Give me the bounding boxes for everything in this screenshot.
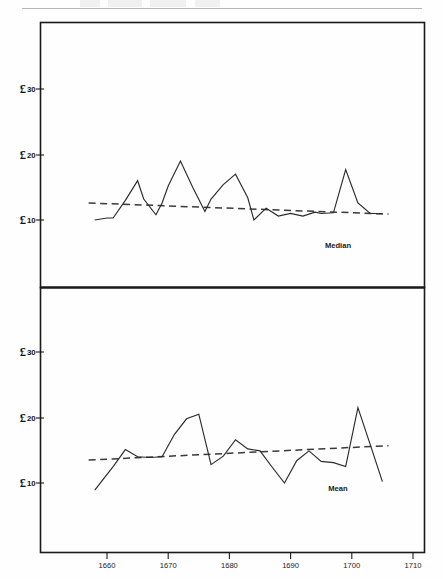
two-panel-line-chart: £ 30 £ 20 £ 10 Median £ 30 <box>0 0 443 579</box>
y-axis-value-30-median: 30 <box>27 85 36 94</box>
x-axis-tick-label: 1680 <box>221 561 238 570</box>
y-axis-value-10-median: 10 <box>27 216 36 225</box>
y-axis-value-30-mean: 30 <box>27 348 36 357</box>
trendline-median <box>89 203 389 214</box>
figure-page: £ 30 £ 20 £ 10 Median £ 30 <box>0 0 443 579</box>
panel-frame-median <box>41 23 425 288</box>
y-axis-labels-median: £ 30 £ 20 £ 10 <box>20 82 37 227</box>
y-axis-currency-30-mean: £ <box>20 345 26 359</box>
y-axis-currency-10-median: £ <box>20 213 26 227</box>
x-axis-tick-label: 1670 <box>160 561 177 570</box>
y-axis-labels-mean: £ 30 £ 20 £ 10 <box>20 345 37 490</box>
series-label-median: Median <box>325 241 352 250</box>
y-axis-value-10-mean: 10 <box>27 479 36 488</box>
x-axis-tick-label: 1700 <box>343 561 360 570</box>
x-axis-labels: 166016701680169017001710 <box>99 561 422 570</box>
panel-frame-mean <box>41 288 425 553</box>
x-axis-tick-label: 1710 <box>405 561 422 570</box>
dataline-median <box>95 161 383 220</box>
y-axis-currency-20-median: £ <box>20 148 26 162</box>
x-axis-tick-label: 1660 <box>99 561 116 570</box>
y-axis-value-20-mean: 20 <box>27 414 36 423</box>
y-axis-value-20-median: 20 <box>27 151 36 160</box>
trendline-mean <box>89 446 389 460</box>
x-axis-tick-label: 1690 <box>282 561 299 570</box>
panel-median: £ 30 £ 20 £ 10 Median <box>20 82 389 250</box>
dataline-mean <box>95 408 383 491</box>
y-axis-currency-30-median: £ <box>20 82 26 96</box>
x-axis: 166016701680169017001710 <box>99 552 422 570</box>
series-label-mean: Mean <box>328 484 348 493</box>
y-axis-currency-20-mean: £ <box>20 411 26 425</box>
y-axis-currency-10-mean: £ <box>20 476 26 490</box>
panel-mean: £ 30 £ 20 £ 10 Mean <box>20 345 389 493</box>
